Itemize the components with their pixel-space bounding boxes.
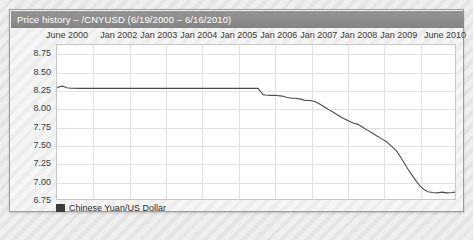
widget-title-bar: Price history – /CNYUSD (6/19/2000 – 6/1… [11,11,464,28]
x-tick-label: Jan 2005 [220,30,257,40]
x-tick-label: Jan 2003 [140,30,177,40]
x-tick-label: Jan 2007 [300,30,337,40]
x-tick-label: Jan 2006 [260,30,297,40]
x-tick-label: Jan 2008 [340,30,377,40]
chart-legend: Chinese Yuan/US Dollar [56,202,166,213]
y-tick-label: 8.50 [33,67,51,76]
y-tick-label: 7.25 [33,159,51,168]
page-title: Price history – /CNYUSD (6/19/2000 – 6/1… [17,14,231,25]
x-tick-label: Jan 2002 [100,30,137,40]
y-tick-label: 7.75 [33,122,51,131]
series-color-swatch [56,204,65,212]
x-tick-label: Jan 2004 [180,30,217,40]
plot-area [56,44,456,200]
line-series-cnyusd [57,86,455,193]
y-tick-label: 7.50 [33,140,51,149]
series-canvas [57,45,455,199]
x-axis-tick-labels: June 2000Jan 2002Jan 2003Jan 2004Jan 200… [11,28,464,44]
legend-label: Chinese Yuan/US Dollar [69,203,166,213]
x-tick-label: Jan 2009 [380,30,417,40]
y-tick-label: 6.75 [33,196,51,205]
x-tick-label: June 2010 [424,30,466,40]
y-tick-label: 8.25 [33,85,51,94]
x-tick-label: June 2000 [46,30,88,40]
y-tick-label: 8.75 [33,49,51,58]
price-history-widget: Price history – /CNYUSD (6/19/2000 – 6/1… [9,9,464,212]
y-tick-label: 8.00 [33,104,51,113]
y-axis-tick-labels: 8.758.508.258.007.757.507.257.006.75 [11,44,55,200]
y-tick-label: 7.00 [33,177,51,186]
